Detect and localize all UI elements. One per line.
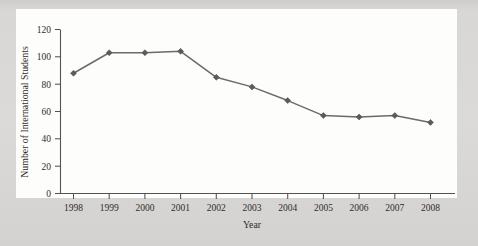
x-tick-label-2006: 2006 bbox=[350, 203, 369, 213]
x-tick-label-2007: 2007 bbox=[385, 203, 404, 213]
data-point-2008 bbox=[428, 119, 434, 125]
data-point-2000 bbox=[142, 50, 148, 56]
y-tick-label-100: 100 bbox=[37, 52, 52, 62]
x-tick-label-2003: 2003 bbox=[243, 203, 262, 213]
y-tick-label-60: 60 bbox=[42, 107, 52, 117]
x-tick-label-1999: 1999 bbox=[100, 203, 119, 213]
y-axis-ticks bbox=[55, 30, 61, 194]
data-point-2004 bbox=[285, 98, 291, 104]
x-tick-label-2002: 2002 bbox=[207, 203, 226, 213]
data-point-1999 bbox=[106, 50, 112, 56]
x-axis-title: Year bbox=[243, 219, 262, 230]
y-tick-label-0: 0 bbox=[46, 189, 51, 199]
x-tick-label-2004: 2004 bbox=[278, 203, 297, 213]
x-tick-label-2008: 2008 bbox=[421, 203, 440, 213]
data-point-2003 bbox=[249, 84, 255, 90]
x-tick-label-2005: 2005 bbox=[314, 203, 333, 213]
line-chart: 0 20 40 60 80 100 120 Number of Internat… bbox=[0, 0, 478, 246]
data-point-1998 bbox=[71, 70, 77, 76]
y-axis-tick-labels: 0 20 40 60 80 100 120 bbox=[37, 25, 52, 199]
y-tick-label-120: 120 bbox=[37, 25, 52, 35]
y-tick-label-20: 20 bbox=[42, 162, 52, 172]
y-tick-label-40: 40 bbox=[42, 134, 52, 144]
x-tick-label-2000: 2000 bbox=[135, 203, 154, 213]
x-axis-tick-labels: 1998 1999 2000 2001 2002 2003 2004 2005 … bbox=[64, 203, 440, 213]
data-point-2006 bbox=[356, 114, 362, 120]
figure-container: 0 20 40 60 80 100 120 Number of Internat… bbox=[0, 0, 478, 246]
x-axis-ticks bbox=[74, 194, 431, 200]
y-tick-label-80: 80 bbox=[42, 80, 52, 90]
x-tick-label-1998: 1998 bbox=[64, 203, 83, 213]
data-point-2005 bbox=[320, 113, 326, 119]
x-tick-label-2001: 2001 bbox=[171, 203, 190, 213]
y-axis-title: Number of International Students bbox=[19, 46, 30, 178]
data-point-2007 bbox=[392, 113, 398, 119]
series-markers bbox=[71, 48, 434, 125]
